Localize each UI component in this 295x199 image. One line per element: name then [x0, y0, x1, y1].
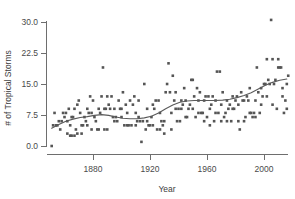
data-point [256, 66, 259, 69]
data-point [106, 128, 109, 131]
data-point [76, 132, 79, 135]
data-point [273, 83, 276, 86]
data-point [122, 91, 125, 94]
data-point [87, 112, 90, 115]
y-tick-label: 22.5 [21, 48, 38, 58]
data-point [164, 91, 167, 94]
data-point [281, 87, 284, 90]
data-point [220, 120, 223, 123]
data-point [266, 95, 269, 98]
data-point [287, 74, 290, 77]
data-point [184, 116, 187, 119]
data-point [209, 124, 212, 127]
data-point [146, 120, 149, 123]
scatter-chart: 0.07.515.022.530.0 1880192019602000 Year… [0, 0, 295, 199]
data-point [267, 79, 270, 82]
data-point [134, 112, 137, 115]
data-point [253, 112, 256, 115]
data-point [140, 141, 143, 144]
data-point [85, 120, 88, 123]
data-point [89, 95, 92, 98]
data-point [123, 124, 126, 127]
data-point [286, 108, 289, 111]
data-point [133, 95, 136, 98]
data-point [93, 116, 96, 119]
data-point [53, 112, 56, 115]
data-point [206, 116, 209, 119]
data-point [113, 120, 116, 123]
data-point [261, 95, 264, 98]
y-axis-ticks: 0.07.515.022.530.0 [21, 17, 46, 151]
data-point [224, 112, 227, 115]
data-point [86, 108, 89, 111]
data-point [283, 112, 286, 115]
data-point [134, 124, 137, 127]
y-tick-label: 15.0 [21, 79, 38, 89]
y-tick-label: 7.5 [26, 110, 38, 120]
data-point [95, 120, 98, 123]
data-point [127, 124, 130, 127]
y-axis-title: # of Tropical Storms [3, 50, 13, 126]
data-point [100, 95, 103, 98]
data-point [213, 120, 216, 123]
data-point [63, 116, 66, 119]
x-tick-label: 1960 [198, 164, 217, 174]
data-point [129, 99, 132, 102]
data-point [237, 120, 240, 123]
data-point [154, 99, 157, 102]
x-axis-ticks: 1880192019602000 [84, 155, 274, 175]
data-point [107, 103, 110, 106]
data-point [237, 103, 240, 106]
data-point [223, 116, 226, 119]
data-point [197, 112, 200, 115]
data-point [109, 108, 112, 111]
data-point [58, 120, 61, 123]
data-point [240, 91, 243, 94]
data-point [142, 120, 145, 123]
data-point [67, 108, 70, 111]
data-point [219, 70, 222, 73]
data-point [143, 83, 146, 86]
data-point [174, 108, 177, 111]
data-point [207, 95, 210, 98]
data-point [159, 128, 162, 131]
data-point [163, 132, 166, 135]
data-point [254, 116, 257, 119]
data-point [132, 103, 135, 106]
data-point [181, 103, 184, 106]
data-point [191, 79, 194, 82]
data-point [59, 128, 62, 131]
data-point [105, 108, 108, 111]
data-point [211, 95, 214, 98]
data-point [157, 99, 160, 102]
data-point [183, 87, 186, 90]
data-point [80, 132, 83, 135]
data-point [246, 95, 249, 98]
data-point [226, 120, 229, 123]
data-point [248, 112, 251, 115]
chart-canvas: 0.07.515.022.530.0 1880192019602000 Year… [0, 0, 295, 199]
data-point [216, 70, 219, 73]
data-point [137, 99, 140, 102]
data-point [243, 120, 246, 123]
data-point [73, 108, 76, 111]
data-point [231, 108, 234, 111]
data-point [209, 108, 212, 111]
data-point [172, 74, 175, 77]
data-point [230, 120, 233, 123]
data-point [69, 124, 72, 127]
data-point [110, 95, 113, 98]
data-point [120, 108, 123, 111]
data-point [113, 108, 116, 111]
data-point [243, 99, 246, 102]
data-point [124, 103, 127, 106]
data-point [179, 120, 182, 123]
data-point [187, 108, 190, 111]
data-point [102, 66, 105, 69]
data-point [174, 91, 177, 94]
data-point [82, 124, 85, 127]
data-point [79, 112, 82, 115]
x-tick-label: 1880 [84, 164, 103, 174]
data-point [234, 99, 237, 102]
data-point [247, 99, 250, 102]
